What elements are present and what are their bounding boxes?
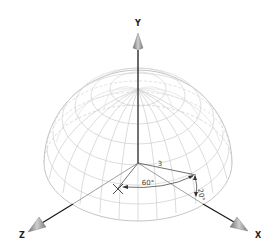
radius-label: 3 — [158, 160, 162, 168]
y-axis-label: Y — [134, 19, 141, 28]
elevation-angle-label: 20° — [196, 188, 206, 202]
azimuth-angle-label: 60° — [142, 179, 154, 187]
hemisphere-diagram: Y Z X 3 60° 20° — [0, 0, 275, 252]
azimuth-arrowhead-icon — [122, 185, 128, 189]
z-axis-arrowhead-icon — [28, 217, 46, 232]
y-axis-arrowhead-icon — [133, 33, 143, 50]
point-marker-icon — [113, 184, 123, 194]
x-axis-label: X — [255, 231, 262, 240]
x-axis-arrowhead-icon — [230, 217, 248, 231]
radius-line — [138, 163, 196, 175]
z-axis-label: Z — [19, 231, 25, 240]
